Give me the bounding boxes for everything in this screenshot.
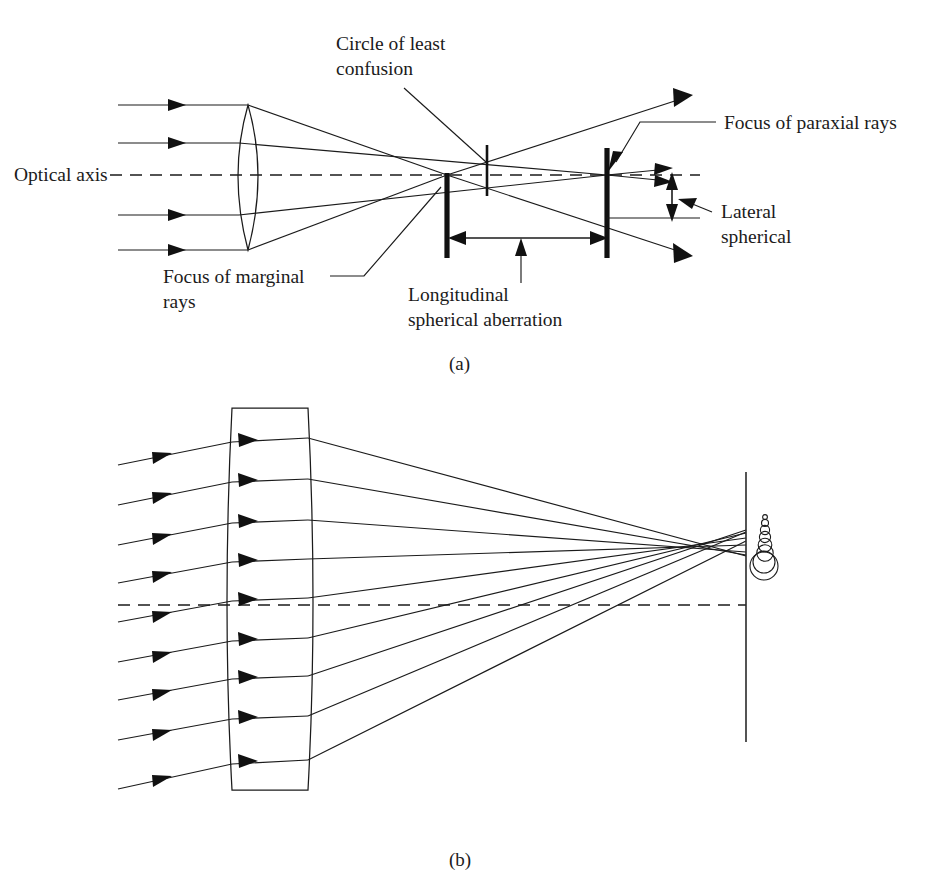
figure-root: Optical axis Circle of least confusion F…	[0, 0, 941, 895]
marginal-ray-upper-out	[447, 98, 684, 175]
marginal-ray-upper-arrowhead	[673, 88, 693, 107]
incident-ray-b-9	[118, 764, 232, 789]
incident-ray-b-1	[118, 442, 232, 465]
ray-group-6	[118, 533, 746, 663]
panel-a: Optical axis Circle of least confusion F…	[14, 33, 897, 375]
ray-arrowhead-b-8a	[152, 729, 172, 741]
incident-ray-b-5	[118, 601, 232, 622]
ray-arrowhead-1	[168, 99, 186, 111]
blur-circle-stack	[750, 515, 778, 580]
label-longitudinal-line1: Longitudinal	[408, 284, 509, 305]
ray-arrowhead-b-2b	[238, 473, 258, 487]
ray-group-5	[118, 538, 746, 623]
ray-arrowhead-b-1a	[152, 452, 172, 464]
lateral-dim-arrow-bottom	[666, 204, 678, 222]
incident-ray-b-3	[118, 523, 232, 545]
ray-arrowhead-b-4a	[152, 571, 172, 583]
refracted-ray-b-8	[308, 532, 746, 716]
leader-arrowhead-longitudinal	[515, 238, 527, 256]
label-lateral-spherical-line2: spherical	[721, 226, 792, 247]
ray-arrowhead-b-7a	[152, 689, 172, 701]
ray-arrowhead-2	[168, 137, 186, 149]
caption-panel-b: (b)	[449, 849, 471, 871]
refracted-ray-b-5	[308, 538, 746, 598]
marginal-ray-lower-in	[248, 175, 447, 250]
label-focus-of-paraxial-rays: Focus of paraxial rays	[724, 112, 897, 133]
paraxial-ray-lower-arrowhead	[654, 163, 673, 175]
refracted-ray-b-1	[308, 438, 746, 556]
marginal-ray-lower-out	[447, 175, 684, 253]
ray-group-1	[118, 433, 746, 556]
ray-arrowhead-b-5b	[238, 592, 258, 606]
refracted-ray-b-2	[308, 479, 746, 555]
blur-circle-1	[763, 515, 768, 520]
label-circle-of-least-confusion-line2: confusion	[336, 58, 413, 79]
refracted-ray-b-9	[308, 541, 746, 760]
ray-arrowhead-b-5a	[152, 611, 172, 623]
incident-ray-b-2	[118, 482, 232, 505]
refracted-ray-b-6	[308, 533, 746, 638]
ray-arrowhead-b-6b	[238, 632, 258, 646]
ray-arrowhead-b-4b	[238, 553, 258, 567]
spherical-aberration-figure: Optical axis Circle of least confusion F…	[0, 0, 941, 895]
incident-ray-b-6	[118, 641, 232, 662]
marginal-ray-upper-in	[248, 105, 447, 175]
ray-arrowhead-3	[168, 209, 186, 221]
label-lateral-spherical-line1: Lateral	[721, 201, 777, 222]
incident-ray-b-7	[118, 679, 232, 700]
ray-group-3	[118, 514, 746, 552]
caption-panel-a: (a)	[449, 353, 470, 375]
ray-arrowhead-b-9b	[238, 754, 258, 768]
label-optical-axis: Optical axis	[14, 164, 108, 185]
leader-circle-of-least-confusion	[404, 88, 486, 162]
panel-b: (b)	[118, 408, 778, 871]
paraxial-ray-upper-in	[239, 143, 607, 175]
incident-ray-b-4	[118, 562, 232, 583]
label-focus-of-marginal-rays-line1: Focus of marginal	[163, 266, 305, 287]
label-longitudinal-line2: spherical aberration	[408, 309, 563, 330]
ray-arrowhead-b-1b	[238, 433, 258, 447]
marginal-ray-lower-arrowhead	[673, 243, 693, 263]
ray-arrowhead-b-9a	[152, 775, 172, 787]
ray-arrowhead-b-7b	[238, 670, 258, 684]
label-focus-of-marginal-rays-line2: rays	[163, 291, 196, 312]
leader-arrowhead-paraxial	[608, 151, 623, 172]
label-circle-of-least-confusion-line1: Circle of least	[336, 33, 446, 54]
incident-rays-a	[118, 99, 248, 256]
ray-arrowhead-b-2a	[152, 492, 172, 504]
leader-focus-of-marginal-rays	[330, 187, 441, 276]
incident-ray-b-8	[118, 719, 232, 740]
leader-focus-of-paraxial-rays	[616, 122, 716, 162]
longitudinal-aberration-dimension	[448, 231, 608, 283]
ray-group-2	[118, 473, 746, 555]
ray-group-8	[118, 532, 746, 741]
ray-arrowhead-b-6a	[152, 651, 172, 663]
blur-circle-4	[759, 531, 770, 542]
ray-arrowhead-b-3b	[238, 514, 258, 528]
lens-outline-a	[238, 105, 258, 250]
leader-arrowhead-lateral	[678, 198, 697, 209]
ray-arrowhead-4	[168, 244, 186, 256]
longitudinal-dim-arrow-left	[448, 231, 466, 245]
ray-arrowhead-b-3a	[152, 533, 172, 545]
ray-group-9	[118, 541, 746, 789]
ray-arrowhead-b-8b	[238, 710, 258, 724]
